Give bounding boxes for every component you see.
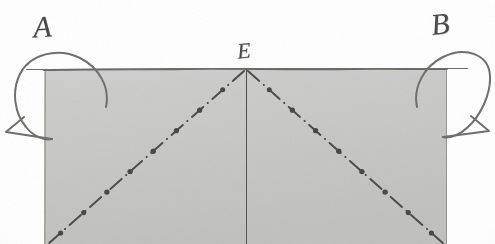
label-A: A [32,11,52,42]
label-B: B [429,8,451,40]
label-E: E [236,39,251,62]
figure-canvas: A E B [0,0,495,244]
